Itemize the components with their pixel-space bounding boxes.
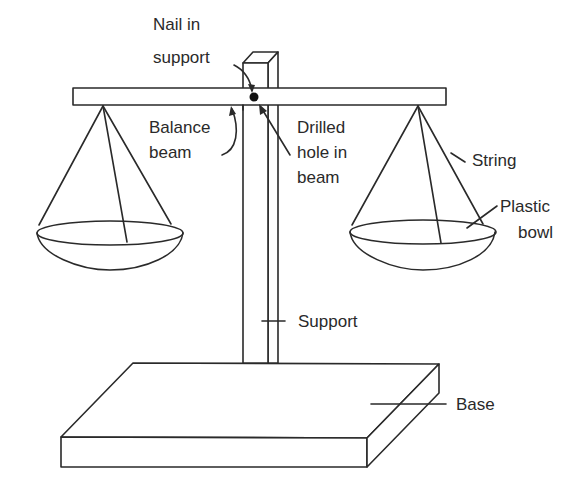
- label-hole-line2: hole in: [297, 143, 347, 162]
- label-bowl-line2: bowl: [518, 223, 553, 242]
- label-bowl-line1: Plastic: [500, 197, 551, 216]
- base: [61, 363, 439, 467]
- label-nail-line2: support: [153, 48, 210, 67]
- right-pan: [350, 106, 496, 270]
- label-hole-line3: beam: [297, 168, 340, 187]
- label-beam-line1: Balance: [149, 118, 210, 137]
- label-string: String: [472, 151, 516, 170]
- label-base: Base: [456, 395, 495, 414]
- label-support: Support: [298, 312, 358, 331]
- label-hole-line1: Drilled: [297, 118, 345, 137]
- nail: [250, 93, 259, 102]
- labels: Nail in support Balance beam Drilled hol…: [149, 15, 553, 414]
- balance-diagram: Nail in support Balance beam Drilled hol…: [0, 0, 587, 498]
- label-beam-line2: beam: [149, 143, 192, 162]
- label-nail-line1: Nail in: [153, 15, 200, 34]
